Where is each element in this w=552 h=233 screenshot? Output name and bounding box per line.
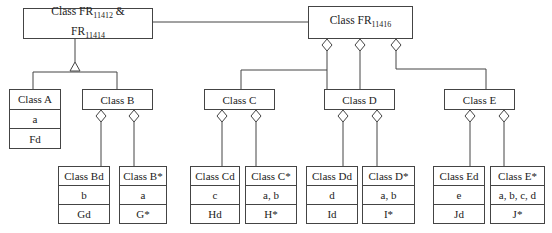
class-fr11416: Class FR11416 xyxy=(308,6,413,39)
class-dd: Class DddId xyxy=(306,166,358,224)
class-bd: Class BdbGd xyxy=(58,166,110,224)
inheritance-triangle-icon xyxy=(70,62,80,71)
class-b-star: Class B*aG* xyxy=(119,166,167,224)
class-ed: Class EdeJd xyxy=(433,166,485,224)
class-b: Class B xyxy=(82,89,153,110)
class-d: Class D xyxy=(324,89,395,110)
class-fr11412-fr11414: Class FR11412 &FR11414 xyxy=(23,8,153,39)
class-a: Class A a Fd xyxy=(9,89,61,149)
class-c-star: Class C*a, bH* xyxy=(245,166,297,224)
class-e: Class E xyxy=(444,89,515,110)
class-c: Class C xyxy=(204,89,275,110)
class-e-star: Class E*a, b, c, dJ* xyxy=(490,166,545,224)
class-cd: Class CdcHd xyxy=(190,166,240,224)
uml-class-diagram: Class FR11412 &FR11414 Class FR11416 Cla… xyxy=(0,0,552,233)
class-d-star: Class D*a, bI* xyxy=(362,166,415,224)
